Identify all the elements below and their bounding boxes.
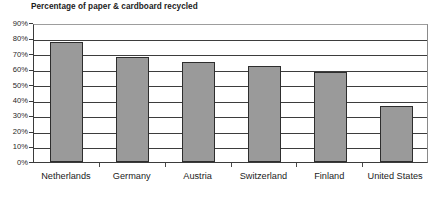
bar-germany bbox=[116, 57, 149, 162]
bar-finland bbox=[314, 72, 347, 162]
x-axis-label-finland: Finland bbox=[314, 170, 344, 182]
bar-chart-figure: Percentage of paper & cardboard recycled… bbox=[0, 0, 439, 202]
y-axis-tick-label: 90% bbox=[0, 20, 28, 28]
y-axis-tick-label: 80% bbox=[0, 35, 28, 43]
bar-netherlands bbox=[50, 42, 83, 162]
x-axis-tick-mark bbox=[231, 163, 232, 167]
gridline-50pct bbox=[34, 86, 427, 87]
gridline-80pct bbox=[34, 40, 427, 41]
gridline-70pct bbox=[34, 55, 427, 56]
y-axis-tick-label: 30% bbox=[0, 112, 28, 120]
y-axis-tick-label: 50% bbox=[0, 82, 28, 90]
bar-austria bbox=[182, 62, 215, 162]
gridline-30pct bbox=[34, 117, 427, 118]
x-axis-tick-mark bbox=[165, 163, 166, 167]
y-axis-tick-label: 70% bbox=[0, 51, 28, 59]
x-axis-label-austria: Austria bbox=[183, 170, 212, 182]
x-axis-tick-mark bbox=[362, 163, 363, 167]
gridline-20pct bbox=[34, 133, 427, 134]
x-axis-label-germany: Germany bbox=[113, 170, 151, 182]
x-axis-tick-mark bbox=[296, 163, 297, 167]
plot-area bbox=[33, 24, 428, 163]
bar-switzerland bbox=[248, 66, 281, 162]
y-axis-tick-label: 10% bbox=[0, 143, 28, 151]
x-axis-label-netherlands: Netherlands bbox=[41, 170, 91, 182]
x-axis-label-switzerland: Switzerland bbox=[240, 170, 288, 182]
gridline-60pct bbox=[34, 71, 427, 72]
gridline-90pct bbox=[34, 24, 427, 25]
gridline-40pct bbox=[34, 102, 427, 103]
y-axis-tick-label: 40% bbox=[0, 97, 28, 105]
gridline-10pct bbox=[34, 148, 427, 149]
y-axis-tick-label: 20% bbox=[0, 128, 28, 136]
y-axis-tick-label: 60% bbox=[0, 66, 28, 74]
y-axis-tick-label: 0% bbox=[0, 159, 28, 167]
bar-united-states bbox=[380, 106, 413, 162]
x-axis-tick-mark bbox=[99, 163, 100, 167]
chart-title: Percentage of paper & cardboard recycled bbox=[31, 1, 198, 13]
x-axis-label-united-states: United States bbox=[367, 170, 422, 182]
